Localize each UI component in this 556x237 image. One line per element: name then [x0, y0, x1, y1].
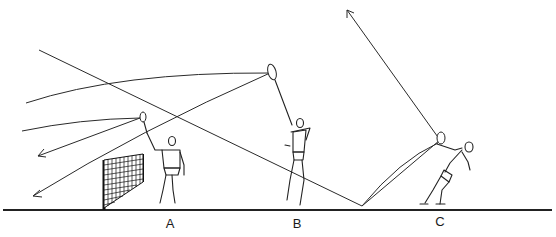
racket-c	[437, 132, 445, 144]
trajectory-a-down	[38, 118, 140, 156]
player-c	[420, 132, 473, 204]
racket-a	[140, 112, 146, 122]
player-b	[266, 63, 310, 205]
label-c: C	[435, 214, 444, 229]
label-b: B	[293, 216, 302, 231]
diagram-canvas	[0, 0, 556, 237]
player-a	[140, 112, 184, 203]
trajectory-c-lift	[347, 10, 440, 140]
net	[104, 154, 143, 210]
badminton-diagram: A B C	[0, 0, 556, 237]
label-a: A	[166, 216, 175, 231]
trajectory-b-clear	[26, 73, 270, 103]
racket-b	[266, 63, 278, 81]
